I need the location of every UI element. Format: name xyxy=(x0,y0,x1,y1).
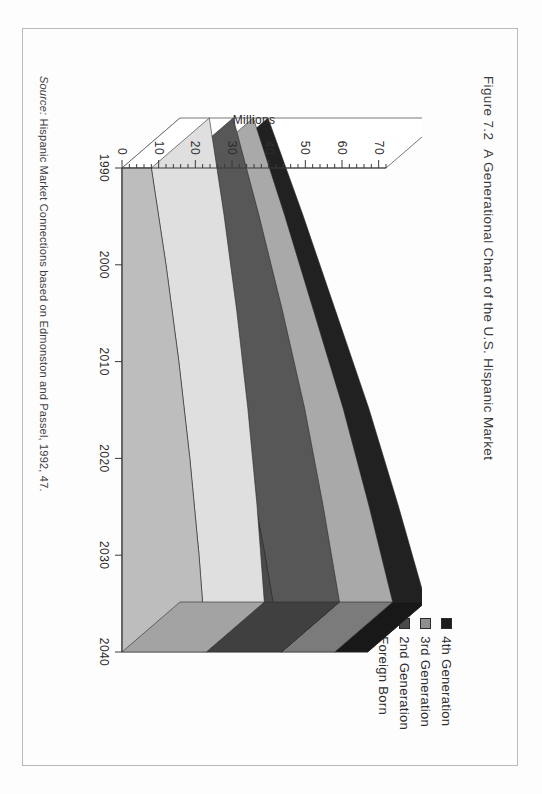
legend-item-4th-generation: 4th Generation xyxy=(439,618,454,730)
svg-text:10: 10 xyxy=(152,141,166,155)
page-title: Figure 7.2A Generational Chart of the U.… xyxy=(481,76,496,460)
generational-area-chart: 010203040506070Millions19902000201020202… xyxy=(74,72,422,720)
svg-text:70: 70 xyxy=(372,141,386,155)
svg-text:Millions: Millions xyxy=(233,113,275,127)
chart-area: 010203040506070Millions19902000201020202… xyxy=(74,72,422,720)
scanned-page: Figure 7.2A Generational Chart of the U.… xyxy=(0,0,542,794)
svg-text:50: 50 xyxy=(298,141,312,155)
svg-text:2020: 2020 xyxy=(97,444,111,472)
source-label: Source: xyxy=(38,76,50,115)
svg-text:1990: 1990 xyxy=(97,154,111,182)
svg-text:40: 40 xyxy=(262,141,276,155)
legend-swatch-4th-generation xyxy=(441,618,452,629)
source-text: Hispanic Market Connections based on Edm… xyxy=(38,119,50,492)
figure-number: Figure 7.2 xyxy=(481,76,496,140)
legend-label-4th-generation: 4th Generation xyxy=(439,636,454,726)
figure-title-text: A Generational Chart of the U.S. Hispani… xyxy=(481,149,496,460)
svg-text:2010: 2010 xyxy=(97,347,111,375)
svg-text:30: 30 xyxy=(225,141,239,155)
figure-plate: Figure 7.2A Generational Chart of the U.… xyxy=(22,28,518,766)
svg-text:2040: 2040 xyxy=(97,638,111,666)
svg-text:2000: 2000 xyxy=(97,251,111,279)
svg-text:0: 0 xyxy=(115,148,129,155)
source-note: Source: Hispanic Market Connections base… xyxy=(38,76,50,492)
svg-text:2030: 2030 xyxy=(97,541,111,569)
svg-text:60: 60 xyxy=(335,141,349,155)
svg-text:20: 20 xyxy=(188,141,202,155)
